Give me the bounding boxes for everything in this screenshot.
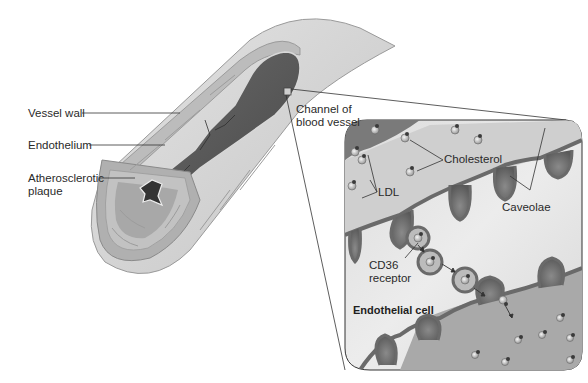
label-channel-of-blood-vessel: Channel of blood vessel (296, 103, 360, 129)
label-cholesterol: Cholesterol (444, 153, 502, 166)
label-endothelium: Endothelium (28, 139, 92, 152)
label-vessel-wall: Vessel wall (28, 107, 85, 120)
atherosclerosis-diagram: Vessel wall Endothelium Atherosclerotic … (0, 0, 588, 383)
label-cd36-receptor: CD36 receptor (369, 259, 411, 285)
endothelial-detail-panel (310, 102, 582, 370)
label-endothelial-cell: Endothelial cell (353, 304, 434, 317)
label-atherosclerotic-plaque: Atherosclerotic plaque (28, 172, 104, 198)
label-ldl: LDL (378, 186, 399, 199)
label-caveolae: Caveolae (502, 201, 551, 214)
focus-marker (284, 88, 291, 95)
